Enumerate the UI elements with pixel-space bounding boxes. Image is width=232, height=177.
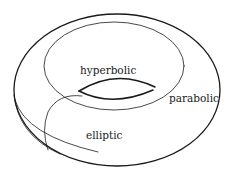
outer-silhouette: [14, 14, 220, 166]
label-hyperbolic: hyperbolic: [80, 64, 136, 76]
label-parabolic: parabolic: [169, 92, 219, 104]
hole-upper-arc: [79, 78, 155, 91]
label-elliptic: elliptic: [86, 129, 123, 141]
lower-rim-line: [15, 100, 98, 152]
left-silhouette-inner: [14, 95, 60, 154]
torus-diagram: hyperbolic parabolic elliptic: [0, 0, 232, 177]
hole-lower-arc: [79, 90, 153, 99]
